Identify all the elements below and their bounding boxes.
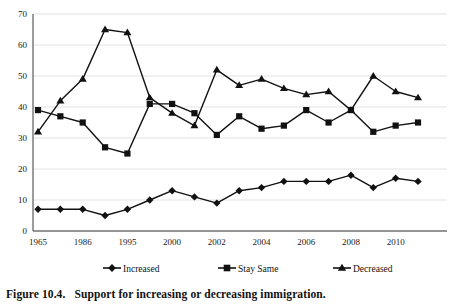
data-point-1-5 <box>147 101 153 107</box>
data-point-2-6 <box>168 109 176 116</box>
y-tick-label-40: 40 <box>18 102 28 112</box>
legend-item-decreased[interactable]: Decreased <box>333 264 393 274</box>
legend-label-2: Decreased <box>353 264 393 274</box>
y-tick-label-10: 10 <box>18 195 28 205</box>
data-point-1-0 <box>35 107 41 113</box>
y-tick-label-20: 20 <box>18 164 28 174</box>
data-point-0-6 <box>168 187 175 194</box>
data-point-0-12 <box>303 178 310 185</box>
data-point-1-9 <box>236 113 242 119</box>
data-point-1-7 <box>191 110 197 116</box>
data-point-2-15 <box>369 72 377 79</box>
legend-marker-diamond-icon <box>108 264 116 272</box>
data-point-1-4 <box>124 150 130 156</box>
data-point-1-15 <box>370 129 376 135</box>
data-point-2-5 <box>146 94 154 101</box>
data-point-2-7 <box>190 122 198 129</box>
data-point-0-11 <box>280 178 287 185</box>
data-point-1-12 <box>303 107 309 113</box>
data-point-1-16 <box>393 123 399 129</box>
data-point-2-8 <box>213 66 221 73</box>
legend-marker-square-icon <box>224 265 231 272</box>
x-tick-label-2008: 2008 <box>342 237 361 247</box>
legend-item-stay-same[interactable]: Stay Same <box>218 264 278 274</box>
data-point-1-2 <box>80 119 86 125</box>
data-point-0-1 <box>57 206 64 213</box>
series-line-1 <box>38 104 418 154</box>
data-point-0-8 <box>213 199 220 206</box>
figure-caption: Figure 10.4.Support for increasing or de… <box>6 288 446 300</box>
legend-label-1: Stay Same <box>238 264 278 274</box>
y-tick-label-0: 0 <box>23 226 28 236</box>
data-point-0-2 <box>79 206 86 213</box>
x-tick-label-1995: 1995 <box>118 237 137 247</box>
data-point-0-13 <box>325 178 332 185</box>
data-point-0-0 <box>34 206 41 213</box>
series-line-0 <box>38 175 418 215</box>
data-point-1-6 <box>169 101 175 107</box>
data-point-1-10 <box>258 126 264 132</box>
figure-container: 0102030405060701965198619952000200220042… <box>0 0 455 306</box>
y-tick-label-70: 70 <box>18 9 28 19</box>
data-point-2-3 <box>101 26 109 33</box>
x-tick-label-2002: 2002 <box>208 237 226 247</box>
data-point-0-9 <box>235 187 242 194</box>
line-chart: 0102030405060701965198619952000200220042… <box>0 0 455 285</box>
data-point-0-14 <box>347 172 354 179</box>
series-stay-same <box>35 101 421 157</box>
data-point-0-5 <box>146 196 153 203</box>
x-tick-label-2000: 2000 <box>163 237 182 247</box>
data-point-0-17 <box>414 178 421 185</box>
data-point-1-13 <box>325 119 331 125</box>
series-increased <box>34 172 421 220</box>
x-tick-label-2006: 2006 <box>297 237 316 247</box>
data-point-0-15 <box>370 184 377 191</box>
legend-item-increased[interactable]: Increased <box>103 264 160 274</box>
y-tick-label-30: 30 <box>18 133 28 143</box>
y-tick-label-60: 60 <box>18 40 28 50</box>
data-point-0-10 <box>258 184 265 191</box>
data-point-1-8 <box>214 132 220 138</box>
data-point-0-16 <box>392 175 399 182</box>
x-tick-label-1986: 1986 <box>74 237 93 247</box>
data-point-1-17 <box>415 119 421 125</box>
figure-caption-text: Support for increasing or decreasing imm… <box>74 288 325 300</box>
series-decreased <box>34 26 422 135</box>
data-point-1-3 <box>102 144 108 150</box>
data-point-0-3 <box>101 212 108 219</box>
legend-label-0: Increased <box>123 264 160 274</box>
data-point-1-1 <box>57 113 63 119</box>
data-point-1-11 <box>281 123 287 129</box>
x-tick-label-2004: 2004 <box>253 237 272 247</box>
data-point-2-13 <box>325 88 333 95</box>
x-tick-label-2010: 2010 <box>387 237 406 247</box>
data-point-2-16 <box>392 88 400 95</box>
x-tick-label-1965: 1965 <box>29 237 48 247</box>
y-tick-label-50: 50 <box>18 71 28 81</box>
data-point-0-4 <box>124 206 131 213</box>
data-point-0-7 <box>191 193 198 200</box>
figure-caption-number: Figure 10.4. <box>6 288 65 300</box>
